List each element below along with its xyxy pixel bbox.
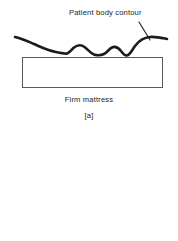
caption-firm-mattress: Firm mattress [0,95,178,104]
figure-container: Patient body contour Firm mattress [a] P… [0,0,178,241]
label-patient-body-contour-firm: Patient body contour [69,8,142,17]
subfigure-label-a: [a] [0,111,178,120]
body-contour-curve-firm [15,37,167,56]
panel-water-bed-mattress: Patient body contour Water bed mattress [0,121,178,241]
panel-firm-mattress: Patient body contour Firm mattress [a] [0,0,178,121]
firm-mattress-box [23,58,163,88]
